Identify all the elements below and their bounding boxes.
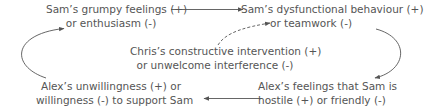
- node-alex-feelings-line2: hostile (+) or friendly (-): [258, 94, 382, 108]
- arrow-alex-willingness-to-sam-feelings: [22, 29, 64, 79]
- node-alex-willingness-line2: willingness (-) to support Sam: [36, 94, 186, 108]
- node-sam-behaviour: Sam’s dysfunctional behaviour (+) or tea…: [241, 3, 381, 30]
- node-alex-feelings: Alex’s feelings that Sam is hostile (+) …: [258, 80, 382, 107]
- node-sam-feelings-line2: or enthusiasm (-): [46, 17, 176, 31]
- node-sam-behaviour-line2: or teamwork (-): [241, 17, 381, 31]
- node-sam-feelings-line1: Sam’s grumpy feelings (+): [46, 3, 176, 17]
- node-sam-behaviour-line1: Sam’s dysfunctional behaviour (+): [241, 3, 381, 17]
- arrow-sam-behaviour-to-alex-feelings: [375, 29, 401, 78]
- node-chris-intervention-line1: Chris’s constructive intervention (+): [130, 45, 300, 59]
- node-sam-feelings: Sam’s grumpy feelings (+) or enthusiasm …: [46, 3, 176, 30]
- node-chris-intervention-line2: or unwelcome interference (-): [130, 59, 300, 73]
- node-alex-willingness-line1: Alex’s unwillingness (+) or: [36, 80, 186, 94]
- node-alex-willingness: Alex’s unwillingness (+) or willingness …: [36, 80, 186, 107]
- node-chris-intervention: Chris’s constructive intervention (+) or…: [130, 45, 300, 72]
- causal-loop-diagram: Sam’s grumpy feelings (+) or enthusiasm …: [0, 0, 429, 112]
- node-alex-feelings-line1: Alex’s feelings that Sam is: [258, 80, 382, 94]
